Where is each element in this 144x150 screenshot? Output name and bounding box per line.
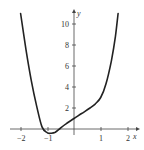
y-tick-label: 6	[65, 62, 69, 71]
x-axis-arrow-icon	[136, 127, 140, 131]
y-tick-label: 2	[65, 104, 69, 113]
y-axis-label: y	[76, 9, 81, 18]
x-axis-label: x	[132, 132, 137, 141]
chart: −2 −1 1 2 x 2 4 6 8 10 y	[0, 0, 144, 150]
x-tick-label: −1	[44, 134, 53, 143]
x-tick-label: −2	[17, 134, 26, 143]
function-curve	[21, 14, 119, 134]
y-axis-arrow-icon	[72, 9, 76, 13]
x-tick-label: 2	[126, 134, 130, 143]
x-tick-label: 1	[99, 134, 103, 143]
y-tick-label: 10	[61, 20, 69, 29]
y-tick-label: 8	[65, 41, 69, 50]
y-tick-label: 4	[65, 83, 69, 92]
